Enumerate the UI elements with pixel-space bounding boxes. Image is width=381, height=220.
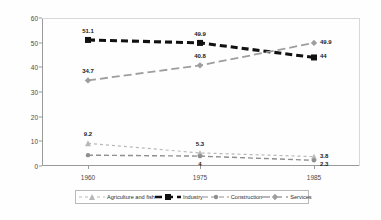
data-point-marker [312,158,316,162]
x-tick-label: 1985 [307,174,321,181]
data-label: 9.2 [84,131,92,137]
line-chart: 0102030405060 196019751985 9.25.33.851.1… [0,0,381,220]
data-point-marker [165,194,171,200]
legend-item-industry[interactable]: Industry [155,193,203,201]
data-point-marker [272,194,278,200]
x-tick-label: 1960 [81,174,95,181]
data-point-marker [197,40,203,46]
y-tick-label: 40 [31,64,38,71]
data-point-marker [86,153,90,157]
legend-item-services[interactable]: Services [262,193,311,201]
data-label: 49.9 [320,39,332,45]
plot-area: 0102030405060 196019751985 9.25.33.851.1… [42,18,360,166]
legend-key-icon [203,193,229,201]
data-label: 2.3 [320,161,328,167]
data-label: 51.1 [82,28,94,34]
x-tick-label: 1975 [193,174,207,181]
data-point-marker [89,194,95,200]
data-point-marker [85,77,91,83]
data-label: 5.3 [196,141,204,147]
data-label: 4 [198,161,201,167]
y-tick-label: 50 [31,39,38,46]
data-label: 3.8 [320,153,328,159]
legend-label: Services [290,194,311,200]
legend-key-icon [155,193,181,201]
data-label: 49.9 [194,31,206,37]
legend-label: Construction [231,194,262,200]
data-label: 34.7 [82,68,94,74]
series-line-services [88,43,314,80]
y-tick-label: 10 [31,138,38,145]
data-label: 40.8 [194,53,206,59]
data-label: 44 [320,53,327,59]
legend-item-agriculture-and-fish[interactable]: Agriculture and fish [79,193,155,201]
y-tick-label: 30 [31,89,38,96]
chart-legend: Agriculture and fishIndustryConstruction… [75,190,309,204]
legend-key-icon [79,193,105,201]
data-point-marker [311,54,317,60]
y-tick-label: 20 [31,113,38,120]
legend-key-icon [262,193,288,201]
y-tick-label: 60 [31,15,38,22]
legend-label: Industry [183,194,203,200]
data-point-marker [311,40,317,46]
data-point-marker [197,62,203,68]
y-tick-label: 0 [34,163,38,170]
data-point-marker [198,154,202,158]
data-point-marker [214,195,218,199]
legend-item-construction[interactable]: Construction [203,193,262,201]
legend-label: Agriculture and fish [107,194,155,200]
data-point-marker [85,37,91,43]
